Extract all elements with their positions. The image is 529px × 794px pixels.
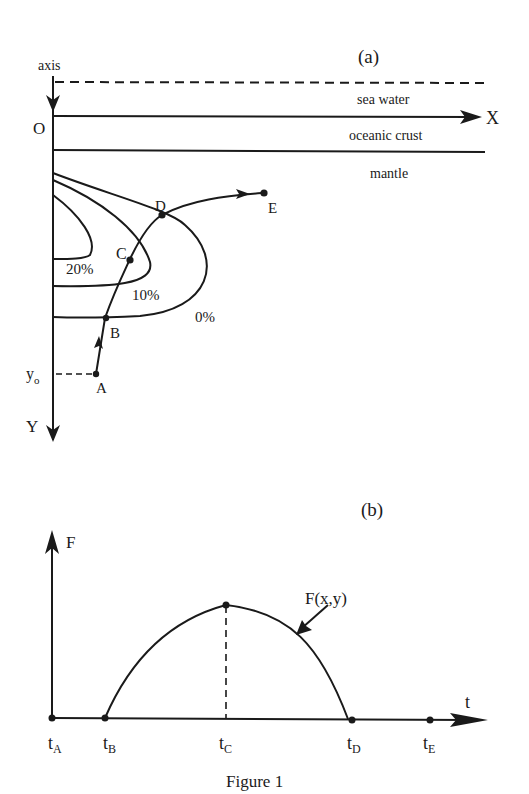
panel-b: (b) F t F(x,y) tA tB tC tD tE (45, 499, 488, 756)
y0-label: yo (26, 365, 40, 386)
sea-water-label: sea water (357, 92, 410, 107)
ta-marker (49, 715, 56, 722)
tick-label-td: tD (347, 733, 361, 756)
tb-marker (102, 715, 109, 722)
point-b-marker (103, 315, 109, 321)
figure-canvas: (a) axis X O sea water oceanic crust man… (0, 0, 529, 794)
contour-20-label: 20% (66, 261, 94, 277)
panel-a-label: (a) (358, 46, 379, 68)
point-d-label: D (155, 198, 166, 214)
tick-label-tb: tB (103, 733, 116, 756)
point-e-label: E (268, 200, 277, 216)
panel-b-label: (b) (361, 499, 383, 521)
sea-surface-dashed-line (55, 82, 485, 83)
contour-20-percent (53, 195, 92, 259)
tc-peak-marker (223, 602, 230, 609)
contour-10-label: 10% (132, 287, 160, 303)
x-axis-label: X (486, 108, 499, 128)
point-a-label: A (96, 380, 107, 396)
panel-a: (a) axis X O sea water oceanic crust man… (26, 46, 499, 442)
tick-label-ta: tA (48, 733, 62, 756)
axis-label: axis (38, 58, 61, 73)
point-c-marker (126, 256, 133, 263)
tick-label-tc: tC (219, 733, 232, 756)
moho-line (53, 150, 485, 152)
contour-0-label: 0% (195, 309, 215, 325)
contour-0-percent (53, 173, 207, 318)
figure-caption: Figure 1 (226, 772, 283, 791)
curve-label: F(x,y) (305, 589, 347, 608)
oceanic-crust-label: oceanic crust (349, 128, 423, 143)
point-b-label: B (110, 325, 120, 341)
tick-label-te: tE (423, 733, 435, 756)
y-axis-label: Y (26, 417, 38, 436)
flow-arrow-right-icon (236, 189, 250, 199)
mantle-label: mantle (370, 166, 408, 181)
f-axis-label: F (66, 533, 75, 552)
point-e-marker (260, 189, 267, 196)
te-marker (427, 717, 434, 724)
point-c-label: C (116, 245, 127, 262)
t-axis-label: t (465, 692, 470, 712)
curve-pointer-line (302, 605, 328, 628)
t-axis-line (52, 718, 470, 720)
point-a-marker (93, 371, 99, 377)
td-marker (349, 717, 356, 724)
x-axis-line (53, 116, 474, 117)
origin-label: O (33, 119, 45, 138)
